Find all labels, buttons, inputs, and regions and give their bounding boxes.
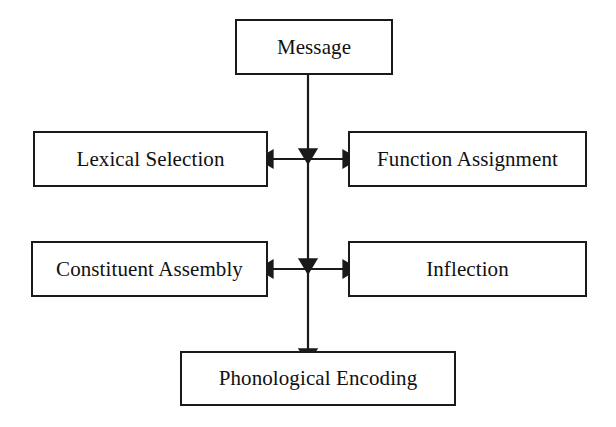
node-constituent-assembly: Constituent Assembly [31, 241, 268, 297]
diagram-canvas: Message Lexical Selection Function Assig… [0, 0, 616, 427]
node-message: Message [235, 19, 393, 75]
node-inflection-label: Inflection [426, 259, 509, 280]
node-phonological-encoding-label: Phonological Encoding [219, 368, 418, 389]
node-function-assignment-label: Function Assignment [377, 149, 558, 170]
node-phonological-encoding: Phonological Encoding [180, 351, 456, 406]
node-message-label: Message [277, 37, 351, 58]
node-lexical-selection: Lexical Selection [33, 131, 268, 187]
node-inflection: Inflection [348, 241, 587, 297]
node-constituent-assembly-label: Constituent Assembly [56, 259, 243, 280]
node-function-assignment: Function Assignment [348, 131, 587, 187]
node-lexical-selection-label: Lexical Selection [76, 149, 224, 170]
